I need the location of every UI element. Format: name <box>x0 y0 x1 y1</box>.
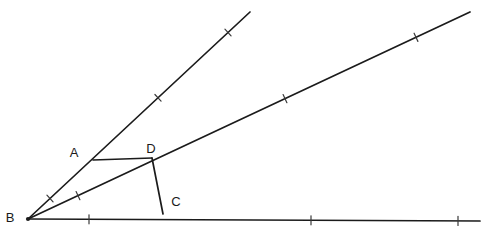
segments-group <box>93 158 163 214</box>
ray-middle <box>28 12 470 219</box>
segment-DC <box>152 158 163 214</box>
point-label-b: B <box>6 210 15 225</box>
point-label-d: D <box>146 141 155 156</box>
vertex-dot-b <box>26 217 30 221</box>
tick-marks-group <box>47 29 458 225</box>
point-label-a: A <box>70 145 79 160</box>
geometry-diagram: B A D C <box>0 0 491 235</box>
segment-AD <box>93 158 152 160</box>
point-labels-group: B A D C <box>6 141 181 225</box>
rays-group <box>28 12 480 221</box>
geometry-canvas: B A D C <box>0 0 491 235</box>
ray-upper <box>28 12 250 219</box>
ray-bottom <box>28 219 480 221</box>
point-label-c: C <box>171 194 180 209</box>
